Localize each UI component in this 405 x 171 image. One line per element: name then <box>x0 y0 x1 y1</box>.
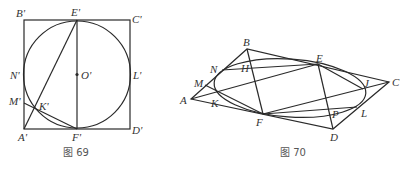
label-c: C <box>392 76 400 88</box>
label-d: D <box>329 131 338 143</box>
label-e: E <box>315 52 323 64</box>
label-l: L <box>360 107 367 119</box>
label-m: M <box>193 77 204 89</box>
label-p: P <box>331 108 339 120</box>
caption-figure-70: 图 70 <box>280 147 306 158</box>
label-f: F' <box>71 131 82 143</box>
geometry-figures: B' E' C' N' O' L' M' K' A' F' D' 图 69 B … <box>0 0 405 171</box>
label-b: B <box>243 36 250 48</box>
segment-e-a <box>24 20 77 129</box>
figure-69: B' E' C' N' O' L' M' K' A' F' D' 图 69 <box>8 6 143 158</box>
segment-n-e <box>222 64 318 70</box>
label-k: K <box>210 97 219 109</box>
label-a: A <box>179 94 187 106</box>
segment-e-j <box>318 64 363 89</box>
center-point-o <box>75 73 78 76</box>
label-n: N' <box>9 69 20 81</box>
caption-figure-69: 图 69 <box>63 147 89 158</box>
figure-70: B H E N M J C A K P L F D 图 70 <box>179 36 400 158</box>
label-a: A' <box>17 131 28 143</box>
segment-b-f <box>247 49 263 114</box>
label-c: C' <box>132 13 142 25</box>
label-f: F <box>255 116 263 128</box>
label-h: H <box>240 62 250 74</box>
segment-m-f <box>24 103 77 129</box>
label-o: O' <box>81 69 92 81</box>
label-d: D' <box>131 124 143 136</box>
label-b: B' <box>16 7 26 19</box>
label-m: M' <box>8 95 21 107</box>
label-n: N <box>209 63 218 75</box>
label-e: E' <box>70 6 81 18</box>
label-l: L' <box>132 69 142 81</box>
label-k: K' <box>38 100 49 112</box>
